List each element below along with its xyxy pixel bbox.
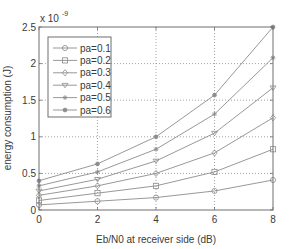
legend-label: pa=0.2 [80,55,111,66]
y-tick-label: 2 [30,58,36,69]
star-marker-icon [212,112,217,117]
y-tick-label: 0 [30,205,36,216]
y-tick-label: 1.5 [22,95,36,106]
filled-circle-marker-icon [154,135,158,139]
line-chart: 0246800.511.522.5 x 10 -9 Eb/N0 at recei… [0,0,289,249]
legend-label: pa=0.6 [80,105,111,116]
x-tick-label: 0 [36,214,42,225]
star-marker-icon [95,170,100,175]
legend-label: pa=0.5 [80,92,111,103]
x-tick-label: 6 [212,214,218,225]
filled-circle-marker-icon [96,162,100,166]
x-tick-label: 2 [95,214,101,225]
filled-circle-legend-icon [63,108,67,112]
filled-circle-marker-icon [213,93,217,97]
y-axis-label: energy consumption (J) [2,66,13,171]
star-legend-icon [63,95,68,100]
legend-label: pa=0.1 [80,43,111,54]
y-tick-label: 0.5 [22,168,36,179]
y-tick-label: 1 [30,131,36,142]
x-tick-label: 8 [270,214,276,225]
star-marker-icon [154,147,159,152]
x-tick-label: 4 [153,214,159,225]
y-exponent-base: x 10 [40,13,59,24]
legend: pa=0.1pa=0.2pa=0.3pa=0.4pa=0.5pa=0.6 [48,37,111,117]
y-exponent-power: -9 [62,10,68,17]
legend-label: pa=0.4 [80,80,111,91]
x-axis-label: Eb/N0 at receiver side (dB) [96,234,216,245]
y-tick-label: 2.5 [22,22,36,33]
legend-label: pa=0.3 [80,67,111,78]
